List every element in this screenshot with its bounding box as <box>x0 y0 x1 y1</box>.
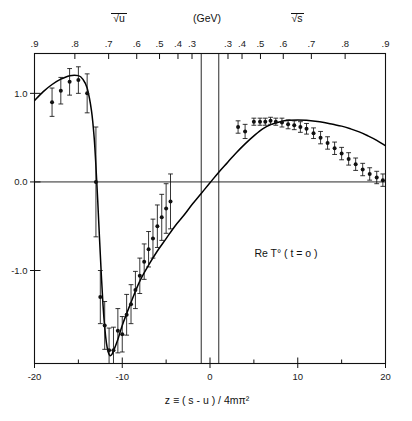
top-left-axis-tick-label: .3 <box>188 38 196 49</box>
top-left-axis-tick-label: .9 <box>31 38 39 49</box>
data-point-marker <box>76 78 80 82</box>
data-point-marker <box>298 125 302 129</box>
top-left-axis-tick-label: .6 <box>133 38 141 49</box>
data-point-marker <box>155 224 159 228</box>
data-point-marker <box>258 120 262 124</box>
data-point-marker <box>340 152 344 156</box>
data-point-marker <box>269 119 273 123</box>
data-point-marker <box>151 237 155 241</box>
top-right-axis-tick-label: .5 <box>256 38 264 49</box>
data-point-marker <box>361 168 365 172</box>
data-point-marker <box>68 80 72 84</box>
data-point-marker <box>94 180 98 184</box>
data-point-marker <box>274 120 278 124</box>
data-point-marker <box>243 129 247 133</box>
data-point-marker <box>107 348 111 352</box>
data-point-marker <box>326 141 330 145</box>
data-point-marker <box>98 295 102 299</box>
data-point-marker <box>252 120 256 124</box>
y-tick-label: -1.0 <box>11 265 27 276</box>
data-point-marker <box>85 91 89 95</box>
data-point-marker <box>103 323 107 327</box>
data-point-marker <box>129 302 133 306</box>
data-point-marker <box>292 123 296 127</box>
data-point-marker <box>160 215 164 219</box>
top-right-axis-tick-label: .4 <box>238 38 246 49</box>
data-point-marker <box>138 274 142 278</box>
data-point-marker <box>280 121 284 125</box>
data-point-marker <box>169 199 173 203</box>
data-point-marker <box>368 172 372 176</box>
data-point-marker <box>116 329 120 333</box>
y-tick-label: 0.0 <box>14 176 27 187</box>
data-point-marker <box>354 162 358 166</box>
plot-svg: √u (GeV) √s Re T° ( t = o ) z ≡ ( s - u … <box>0 0 412 421</box>
data-point-marker <box>142 260 146 264</box>
data-point-marker <box>319 136 323 140</box>
data-point-marker <box>164 207 168 211</box>
plot-annotation: Re T° ( t = o ) <box>254 247 317 259</box>
top-right-axis-tick-label: .8 <box>341 38 349 49</box>
x-tick-label: -20 <box>28 371 42 382</box>
figure-root: √u (GeV) √s Re T° ( t = o ) z ≡ ( s - u … <box>0 0 412 421</box>
data-point-marker <box>263 120 267 124</box>
data-point-marker <box>347 157 351 161</box>
data-point-marker <box>236 125 240 129</box>
top-right-axis-tick-label: .3 <box>224 38 232 49</box>
data-point-marker <box>375 176 379 180</box>
data-point-marker <box>312 131 316 135</box>
data-point-marker <box>333 146 337 150</box>
data-point-marker <box>305 127 309 131</box>
data-point-marker <box>381 178 385 182</box>
data-point-marker <box>286 122 290 126</box>
y-tick-label: 1.0 <box>14 88 27 99</box>
data-point-marker <box>111 348 115 352</box>
top-left-axis-tick-label: .7 <box>105 38 113 49</box>
top-axis-unit-label: (GeV) <box>193 12 221 24</box>
top-right-axis-tick-label: .6 <box>279 38 287 49</box>
data-point-marker <box>125 313 129 317</box>
data-point-marker <box>133 288 137 292</box>
canvas-background <box>0 0 412 421</box>
x-axis-title: z ≡ ( s - u ) / 4mπ² <box>165 394 250 406</box>
top-left-axis-tick-label: .8 <box>71 38 79 49</box>
top-right-axis-tick-label: .9 <box>382 38 390 49</box>
data-point-marker <box>59 89 63 93</box>
data-point-marker <box>147 247 151 251</box>
top-left-axis-tick-label: .5 <box>156 38 164 49</box>
x-tick-label: -10 <box>115 371 129 382</box>
data-point-marker <box>50 100 54 104</box>
top-left-axis-tick-label: .4 <box>174 38 182 49</box>
x-tick-label: 0 <box>207 371 212 382</box>
data-point-marker <box>120 332 124 336</box>
top-right-axis-tick-label: .7 <box>307 38 315 49</box>
x-tick-label: 10 <box>292 371 303 382</box>
x-tick-label: 20 <box>380 371 391 382</box>
